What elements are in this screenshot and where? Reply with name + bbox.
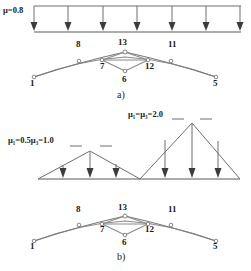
joint-8 xyxy=(77,59,81,63)
node-label-1-b: 1 xyxy=(30,242,35,251)
node-label-6-a: 6 xyxy=(122,75,127,84)
joint-11-b xyxy=(169,223,173,227)
node-label-8-b: 8 xyxy=(76,205,81,214)
load-label-a: μ=0.8 xyxy=(3,6,23,15)
node-label-11-b: 11 xyxy=(168,205,177,214)
caption-a: a) xyxy=(117,90,125,100)
truss-web-7-6 xyxy=(102,60,125,71)
uniform-load-a xyxy=(31,6,244,32)
load-arrowheads-b xyxy=(60,168,222,178)
node-label-1-a: 1 xyxy=(30,79,35,88)
joint-13-b xyxy=(123,214,127,218)
figure-root: μ=0.8 8 13 11 7 12 1 6 5 a) xyxy=(0,0,251,271)
truss-web-13-7-b xyxy=(102,216,125,224)
joint-11 xyxy=(169,59,173,63)
node-label-7-b: 7 xyxy=(100,225,105,234)
joint-6 xyxy=(123,69,127,73)
node-label-13-b: 13 xyxy=(118,203,127,212)
joint-8-b xyxy=(77,223,81,227)
node-label-5-a: 5 xyxy=(213,79,218,88)
truss-web-13-12-b xyxy=(125,216,148,224)
joint-13 xyxy=(123,50,127,54)
truss-web-13-7 xyxy=(102,52,125,60)
load-arrowheads xyxy=(31,22,244,31)
node-label-12-a: 12 xyxy=(145,62,154,71)
node-label-8-a: 8 xyxy=(76,40,81,49)
node-label-5-b: 5 xyxy=(213,242,218,251)
truss-web-7-6-b xyxy=(102,224,125,235)
node-label-13-a: 13 xyxy=(118,38,127,47)
triangular-load-b xyxy=(38,119,240,179)
node-label-12-b: 12 xyxy=(145,225,154,234)
node-label-6-b: 6 xyxy=(122,238,127,247)
load-label-b-left: μ₁=0.5μ₃=1.0 xyxy=(8,136,54,145)
load-arrows-right xyxy=(165,124,218,172)
caption-b: b) xyxy=(117,252,125,262)
truss-web-13-12 xyxy=(125,52,148,60)
node-label-7-a: 7 xyxy=(100,62,105,71)
node-label-11-a: 11 xyxy=(168,40,177,49)
load-label-b-right: μ₁=μ₃=2.0 xyxy=(128,110,163,119)
